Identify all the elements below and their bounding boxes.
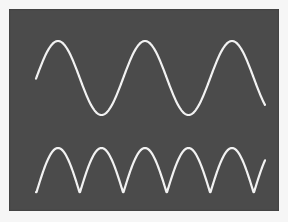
sine-wave-trace: [36, 41, 265, 115]
figure-frame: [0, 0, 288, 222]
rectified-wave-trace: [36, 148, 265, 192]
waveform-plot: [0, 0, 288, 222]
